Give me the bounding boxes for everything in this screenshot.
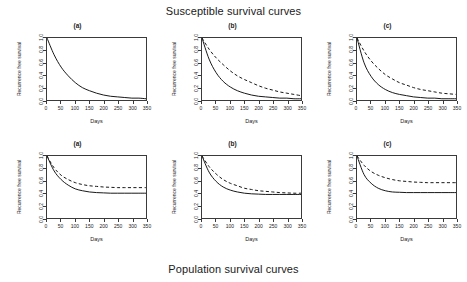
y-axis: 0.00.20.40.60.81.0	[340, 155, 356, 219]
x-axis: 050100150200250300350	[356, 219, 457, 233]
curve-solid	[357, 38, 456, 99]
y-tick-label: 0.4	[350, 190, 355, 197]
chart-panel-top-right: (c)Recurrence free survival0.00.20.40.60…	[310, 22, 465, 140]
x-axis-title: Days	[356, 236, 457, 242]
plot-area	[46, 37, 147, 101]
x-tick	[215, 219, 216, 222]
x-tick-label: 200	[410, 105, 418, 111]
x-axis-title: Days	[46, 236, 147, 242]
x-axis: 050100150200250300350	[356, 101, 457, 115]
x-tick-label: 300	[283, 105, 291, 111]
x-tick-label: 0	[200, 105, 203, 111]
x-tick	[457, 219, 458, 222]
curve-dashed	[202, 38, 301, 96]
x-tick	[104, 101, 105, 104]
y-axis: 0.00.20.40.60.81.0	[30, 155, 46, 219]
x-tick-label: 100	[226, 105, 234, 111]
x-tick-label: 250	[269, 105, 277, 111]
curve-canvas	[47, 156, 146, 218]
x-tick-label: 350	[298, 105, 306, 111]
figure-panel-grid: Susceptible survival curves Population s…	[0, 0, 467, 282]
y-tick-label: 0.8	[350, 46, 355, 53]
panel-label: (a)	[0, 22, 155, 29]
x-tick-label: 300	[128, 105, 136, 111]
y-tick-label: 0.2	[40, 85, 45, 92]
panel-label: (a)	[0, 140, 155, 147]
y-axis: 0.00.20.40.60.81.0	[185, 155, 201, 219]
x-tick-label: 300	[438, 105, 446, 111]
x-tick-label: 0	[45, 223, 48, 229]
chart-panel-top-middle: (b)Recurrence free survival0.00.20.40.60…	[155, 22, 310, 140]
panel-label: (c)	[310, 22, 465, 29]
curve-solid	[357, 156, 456, 193]
x-tick-label: 50	[213, 105, 219, 111]
plot-area	[46, 155, 147, 219]
x-tick-label: 50	[213, 223, 219, 229]
x-tick	[60, 101, 61, 104]
y-axis-title: Recurrence free survival	[15, 155, 23, 219]
x-tick	[244, 219, 245, 222]
x-tick	[273, 219, 274, 222]
plot-area	[201, 37, 302, 101]
x-tick	[356, 219, 357, 222]
x-tick	[89, 219, 90, 222]
x-tick-label: 200	[100, 223, 108, 229]
x-tick	[414, 101, 415, 104]
x-axis: 050100150200250300350	[46, 101, 147, 115]
panel-label: (b)	[155, 22, 310, 29]
x-tick	[147, 101, 148, 104]
y-tick-label: 0.8	[195, 164, 200, 171]
x-tick-label: 350	[453, 223, 461, 229]
y-tick-label: 0.8	[195, 46, 200, 53]
y-axis: 0.00.20.40.60.81.0	[30, 37, 46, 101]
curve-solid	[202, 38, 301, 99]
x-tick	[288, 101, 289, 104]
x-axis: 050100150200250300350	[46, 219, 147, 233]
x-tick	[230, 219, 231, 222]
x-tick-label: 0	[355, 223, 358, 229]
y-tick-label: 1.0	[40, 34, 45, 41]
y-axis-title: Recurrence free survival	[170, 37, 178, 101]
y-axis-title: Recurrence free survival	[325, 37, 333, 101]
y-axis: 0.00.20.40.60.81.0	[340, 37, 356, 101]
x-tick-label: 0	[200, 223, 203, 229]
y-tick-label: 1.0	[195, 152, 200, 159]
x-tick-label: 200	[100, 105, 108, 111]
x-tick	[75, 219, 76, 222]
x-tick	[399, 101, 400, 104]
x-tick-label: 150	[240, 223, 248, 229]
y-tick-label: 1.0	[350, 34, 355, 41]
curve-canvas	[202, 38, 301, 100]
figure-bottom-title: Population survival curves	[0, 263, 467, 275]
y-tick-label: 0.0	[40, 216, 45, 223]
y-axis-title: Recurrence free survival	[15, 37, 23, 101]
x-tick	[302, 101, 303, 104]
x-tick	[302, 219, 303, 222]
y-tick-label: 0.0	[195, 98, 200, 105]
x-tick-label: 150	[240, 105, 248, 111]
y-tick-label: 1.0	[40, 152, 45, 159]
x-tick	[443, 101, 444, 104]
curve-solid	[47, 156, 146, 193]
chart-panel-bottom-middle: (b)Recurrence free survival0.00.20.40.60…	[155, 140, 310, 258]
x-tick-label: 100	[71, 223, 79, 229]
x-tick	[104, 219, 105, 222]
plot-area	[201, 155, 302, 219]
x-tick-label: 350	[143, 105, 151, 111]
x-tick	[133, 101, 134, 104]
x-tick	[259, 101, 260, 104]
curve-dashed	[202, 156, 301, 193]
x-tick-label: 200	[255, 223, 263, 229]
y-tick-label: 0.6	[350, 177, 355, 184]
curve-solid	[47, 38, 146, 99]
curve-canvas	[357, 38, 456, 100]
x-tick-label: 100	[226, 223, 234, 229]
x-tick	[201, 101, 202, 104]
y-tick-label: 0.0	[350, 98, 355, 105]
x-tick	[259, 219, 260, 222]
x-tick	[399, 219, 400, 222]
y-tick-label: 0.0	[195, 216, 200, 223]
y-tick-label: 0.4	[40, 190, 45, 197]
plot-area	[356, 37, 457, 101]
x-tick	[147, 219, 148, 222]
